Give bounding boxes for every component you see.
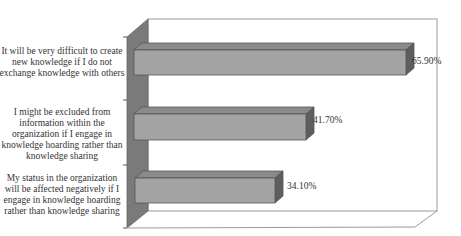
bar-1: [134, 107, 314, 140]
bar-1-front: [134, 114, 306, 140]
value-label-0: 65.90%: [412, 56, 441, 66]
bar-2-front: [135, 178, 275, 203]
category-label-2: My status in the organization will be af…: [0, 173, 125, 217]
bar-1-top: [134, 107, 314, 114]
chart-floor: [127, 211, 437, 228]
bar-0: [134, 43, 414, 75]
bar-2-top: [135, 171, 283, 178]
bar-2: [135, 171, 283, 203]
bar-0-top: [134, 43, 414, 50]
category-label-0: It will be very difficult to create new …: [0, 46, 125, 79]
value-label-2: 34.10%: [287, 181, 316, 191]
value-label-1: 41.70%: [313, 115, 342, 125]
bar-0-front: [134, 50, 406, 75]
category-label-1: I might be excluded from information wit…: [0, 107, 125, 162]
